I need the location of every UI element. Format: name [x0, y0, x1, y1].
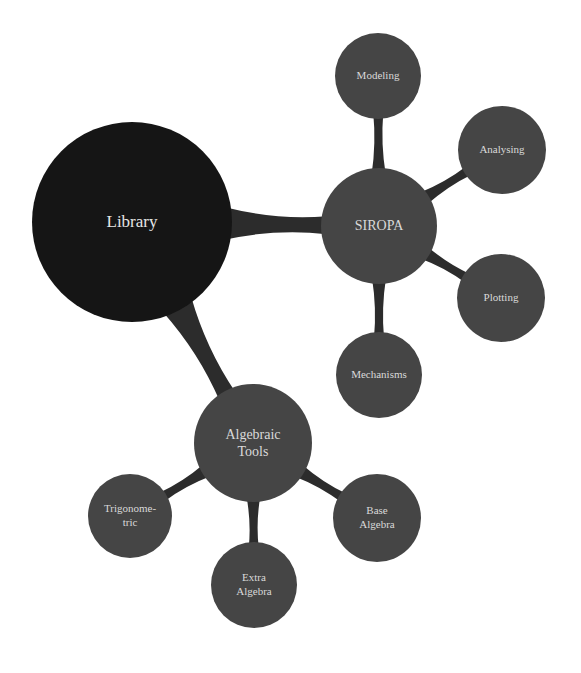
node-siropa[interactable]	[321, 168, 437, 284]
nodes	[32, 33, 546, 628]
node-extra-algebra[interactable]	[211, 542, 297, 628]
node-library[interactable]	[32, 122, 232, 322]
node-trigonometric[interactable]	[88, 474, 172, 558]
node-analysing[interactable]	[458, 106, 546, 194]
connector-algebraic-tools-extra-algebra	[246, 496, 260, 548]
node-base-algebra[interactable]	[333, 474, 421, 562]
connector-library-siropa	[226, 208, 327, 240]
node-plotting[interactable]	[457, 254, 545, 342]
connector-siropa-mechanisms	[372, 278, 386, 338]
node-algebraic-tools[interactable]	[194, 384, 312, 502]
connector-siropa-modeling	[372, 113, 386, 174]
node-modeling[interactable]	[335, 33, 421, 119]
mindmap-canvas	[0, 0, 581, 673]
node-mechanisms[interactable]	[336, 332, 422, 418]
